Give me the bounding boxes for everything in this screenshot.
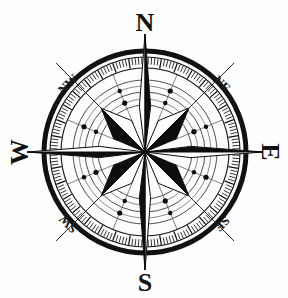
- label-east: E: [256, 143, 285, 160]
- bearing-dot: [191, 129, 196, 134]
- bearing-dot: [81, 124, 86, 129]
- label-north: N: [136, 8, 155, 37]
- bearing-dot: [203, 175, 208, 180]
- label-west: W: [5, 139, 34, 165]
- compass-rose-figure: NESWNWNESESW: [0, 0, 288, 298]
- bearing-dot: [163, 101, 167, 105]
- bearing-dot: [163, 198, 168, 203]
- bearing-dot: [82, 175, 86, 179]
- bearing-dot: [168, 88, 173, 93]
- bearing-dot: [122, 100, 127, 105]
- bearing-dot: [117, 210, 122, 215]
- compass-rose-svg: NESWNWNESESW: [0, 0, 288, 298]
- bearing-dot: [192, 170, 196, 174]
- bearing-dot: [204, 125, 208, 129]
- bearing-dot: [93, 170, 98, 175]
- bearing-dot: [168, 211, 172, 215]
- bearing-dot: [118, 89, 122, 93]
- bearing-dot: [123, 199, 127, 203]
- label-south: S: [138, 268, 152, 297]
- bearing-dot: [94, 130, 98, 134]
